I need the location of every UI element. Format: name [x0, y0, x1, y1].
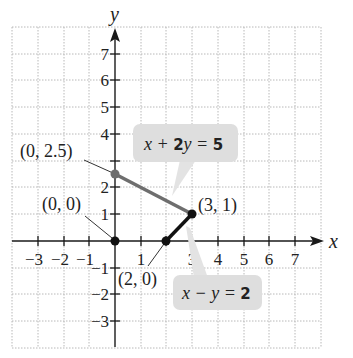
point-label-0-0: (0, 0) [42, 194, 81, 215]
y-tick-label: 4 [101, 125, 110, 144]
callout-eq1: x + 2y = 5 [133, 124, 238, 196]
y-tick-label: 2 [101, 178, 110, 197]
point-0-0 [111, 237, 120, 246]
leader-lines [84, 160, 164, 266]
y-tick-labels: 7 6 5 4 2 1 −1 −2 −3 [91, 45, 110, 331]
x-tick-label: 7 [291, 250, 300, 269]
x-tick-label: 1 [137, 250, 146, 269]
y-tick-label: −3 [91, 312, 109, 331]
point-0-2.5 [111, 170, 120, 179]
point-label-0-2.5: (0, 2.5) [20, 141, 73, 162]
y-tick-label: 5 [101, 98, 110, 117]
y-tick-label: −2 [91, 285, 109, 304]
x-tick-label: 6 [265, 250, 274, 269]
point-3-1 [188, 210, 197, 219]
y-tick-label: −1 [91, 259, 109, 278]
y-axis-label: y [108, 3, 119, 26]
axes [12, 36, 316, 347]
point-2-0 [162, 237, 171, 246]
x-axis-label: x [328, 230, 338, 252]
x-tick-label: 5 [240, 250, 249, 269]
y-tick-label: 1 [101, 205, 110, 224]
equation-label-2: x − y = 2 [181, 283, 251, 303]
x-tick-labels: −3 −2 −1 1 3 4 5 6 7 [25, 250, 300, 269]
x-tick-label: 4 [214, 250, 223, 269]
point-label-2-0: (2, 0) [118, 269, 157, 290]
point-label-3-1: (3, 1) [198, 195, 237, 216]
x-tick-label: −2 [51, 250, 69, 269]
y-tick-label: 6 [101, 71, 110, 90]
grid [12, 27, 321, 348]
y-tick-label: 7 [101, 45, 110, 64]
equation-label-1: x + 2y = 5 [143, 134, 223, 154]
coordinate-plane: x y −3 −2 −1 1 3 4 5 6 7 7 6 5 4 2 1 −1 … [0, 0, 353, 358]
x-tick-label: −3 [25, 250, 43, 269]
